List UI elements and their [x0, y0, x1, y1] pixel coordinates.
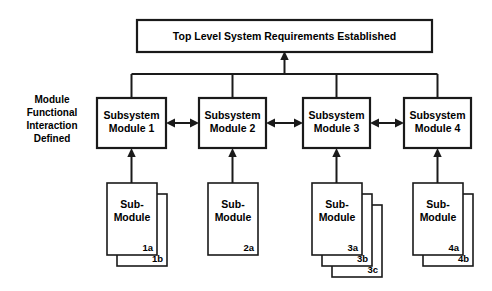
- top-level-requirements-box: Top Level System Requirements Establishe…: [137, 20, 432, 52]
- module-4-label-line-1: Subsystem: [409, 109, 465, 121]
- submodule-arrowhead-2-icon: [228, 148, 236, 157]
- submodule-1a-label-line-1: Sub-: [120, 198, 144, 210]
- submodule-2a-label-line-1: Sub-: [221, 198, 245, 210]
- submodule-4a-tag: 4a: [448, 242, 459, 253]
- interaction-arrowhead-right-3-4-icon: [395, 119, 404, 128]
- submodule-2a-tag: 2a: [243, 242, 254, 253]
- subsystem-module-3[interactable]: Subsystem Module 3: [303, 98, 370, 148]
- interaction-arrowhead-left-3-4-icon: [370, 119, 379, 128]
- submodule-arrowhead-1-icon: [127, 148, 135, 157]
- module-1-label-line-2: Module 1: [109, 122, 155, 134]
- interaction-arrowhead-left-2-3-icon: [266, 119, 275, 128]
- submodule-stack-4[interactable]: 4b Sub- Module 4a: [413, 183, 473, 266]
- submodule-arrow-3: [332, 148, 340, 183]
- submodule-3a-label-line-2: Module: [319, 211, 356, 223]
- module-2-label-line-1: Subsystem: [204, 109, 260, 121]
- side-label-line-4: Defined: [34, 133, 71, 144]
- submodule-3a-label-line-1: Sub-: [325, 198, 349, 210]
- side-label-line-2: Functional: [27, 107, 78, 118]
- submodule-arrow-2: [228, 148, 236, 183]
- module-2-label-line-2: Module 2: [210, 122, 256, 134]
- top-level-box-label: Top Level System Requirements Establishe…: [173, 30, 396, 42]
- interaction-arrow-module-2-module-3: [266, 119, 303, 128]
- module-4-label-line-2: Module 4: [415, 122, 461, 134]
- submodule-arrow-1: [127, 148, 135, 183]
- submodule-4a-label-line-1: Sub-: [426, 198, 450, 210]
- submodule-arrowhead-4-icon: [433, 148, 441, 157]
- diagram-canvas: Top Level System Requirements Establishe…: [0, 0, 492, 291]
- subsystem-module-4[interactable]: Subsystem Module 4: [404, 98, 471, 148]
- side-label-module-functional-interaction-defined: Module Functional Interaction Defined: [26, 94, 77, 144]
- submodule-arrow-4: [433, 148, 441, 183]
- tree-connector: [132, 51, 438, 98]
- submodule-1a-tag: 1a: [142, 242, 153, 253]
- submodule-4a-label-line-2: Module: [420, 211, 457, 223]
- interaction-arrowhead-left-1-2-icon: [166, 119, 175, 128]
- submodule-1a-label-line-2: Module: [114, 211, 151, 223]
- side-label-line-3: Interaction: [26, 120, 77, 131]
- submodule-stack-2[interactable]: Sub- Module 2a: [208, 183, 258, 255]
- submodule-2a-label-line-2: Module: [215, 211, 252, 223]
- interaction-arrow-module-3-module-4: [370, 119, 404, 128]
- interaction-arrow-module-1-module-2: [166, 119, 199, 128]
- submodule-stack-3[interactable]: 3c 3b Sub- Module 3a: [312, 183, 382, 277]
- submodule-arrowhead-3-icon: [332, 148, 340, 157]
- module-1-label-line-1: Subsystem: [103, 109, 159, 121]
- interaction-arrowhead-right-2-3-icon: [294, 119, 303, 128]
- system-decomposition-diagram: Top Level System Requirements Establishe…: [0, 0, 492, 291]
- module-3-label-line-2: Module 3: [314, 122, 360, 134]
- submodule-3a-tag: 3a: [347, 242, 358, 253]
- submodule-stack-1[interactable]: 1b Sub- Module 1a: [107, 183, 167, 266]
- interaction-arrowhead-right-1-2-icon: [190, 119, 199, 128]
- subsystem-module-1[interactable]: Subsystem Module 1: [97, 98, 166, 148]
- side-label-line-1: Module: [35, 94, 70, 105]
- subsystem-module-2[interactable]: Subsystem Module 2: [199, 98, 266, 148]
- module-3-label-line-1: Subsystem: [308, 109, 364, 121]
